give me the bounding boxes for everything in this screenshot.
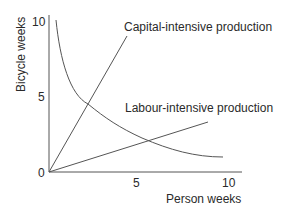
isoquant-curve	[56, 20, 223, 157]
origin-label: 0	[38, 167, 45, 179]
y-tick-10: 10	[32, 16, 45, 28]
x-axis-label: Person weeks	[166, 193, 241, 205]
capital-intensive-label: Capital-intensive production	[124, 21, 272, 33]
labour-intensive-label: Labour-intensive production	[125, 102, 273, 114]
y-tick-5: 5	[38, 91, 45, 103]
x-tick-10: 10	[222, 177, 235, 189]
y-axis-label: Bicycle weeks	[15, 17, 27, 92]
x-tick-5: 5	[133, 177, 140, 189]
